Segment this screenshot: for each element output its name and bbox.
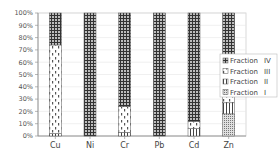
legend-label: Fraction: [230, 89, 258, 97]
bar-segment-fraction-iv: [84, 13, 96, 136]
bar-ni: [84, 13, 96, 136]
y-tick-label: 10%: [19, 120, 33, 128]
y-tick-label: 20%: [19, 108, 33, 116]
bar-segment-fraction-iii: [188, 121, 200, 128]
y-tick-label: 50%: [19, 71, 33, 79]
bar-segment-fraction-i: [223, 114, 235, 136]
legend-label: Fraction: [230, 68, 258, 76]
bar-pb: [153, 13, 165, 136]
bar-segment-fraction-iii: [49, 45, 61, 134]
y-tick-label: 60%: [19, 59, 33, 67]
stacked-bar-chart: 0%10%20%30%40%50%60%70%80%90%100% CuNiCr…: [0, 0, 279, 159]
y-tick-label: 0%: [23, 132, 33, 140]
x-tick-label: Ni: [86, 141, 94, 150]
legend-label-numeral: III: [264, 68, 270, 76]
bar-segment-fraction-ii: [49, 134, 61, 136]
bar-segment-fraction-iii: [119, 106, 131, 132]
x-tick-label: Zn: [223, 141, 234, 150]
legend-item-fraction-iv: FractionIV: [223, 57, 271, 65]
y-tick-label: 30%: [19, 95, 33, 103]
bar-segment-fraction-iv: [188, 13, 200, 121]
x-tick-label: Cu: [50, 141, 61, 150]
legend-swatch: [223, 69, 228, 74]
legend: FractionIVFractionIIIFractionIIFractionI: [220, 54, 277, 97]
legend-swatch: [223, 58, 228, 63]
legend-swatch: [223, 90, 228, 95]
legend-label: Fraction: [230, 78, 258, 86]
y-tick-label: 100%: [14, 9, 33, 17]
bar-segment-fraction-ii: [223, 103, 235, 114]
x-axis: CuNiCrPbCdZn: [50, 136, 234, 150]
legend-label: Fraction: [230, 57, 258, 65]
bar-segment-fraction-iv: [153, 13, 165, 136]
x-tick-label: Cr: [120, 141, 130, 150]
gridlines: [38, 13, 246, 136]
bar-segment-fraction-iv: [49, 13, 61, 45]
legend-item-fraction-iii: FractionIII: [223, 68, 270, 76]
legend-label-numeral: IV: [264, 57, 271, 65]
legend-label-numeral: I: [264, 89, 266, 97]
bar-segment-fraction-ii: [119, 132, 131, 136]
y-tick-label: 90%: [19, 22, 33, 30]
x-tick-label: Pb: [154, 141, 164, 150]
bar-cu: [49, 13, 61, 136]
y-tick-label: 80%: [19, 34, 33, 42]
y-tick-label: 70%: [19, 46, 33, 54]
legend-label-numeral: II: [264, 78, 268, 86]
legend-swatch: [223, 79, 228, 84]
bar-cd: [188, 13, 200, 136]
bar-segment-fraction-ii: [188, 129, 200, 136]
x-tick-label: Cd: [189, 141, 200, 150]
y-tick-label: 40%: [19, 83, 33, 91]
bar-cr: [119, 13, 131, 136]
bar-segment-fraction-iv: [119, 13, 131, 106]
